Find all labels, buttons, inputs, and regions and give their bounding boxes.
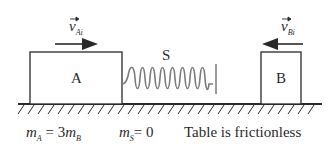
spring-mass-symbol: m bbox=[119, 124, 130, 140]
block-a-label: A bbox=[71, 70, 82, 87]
mass-relation-equals: = 3 bbox=[45, 124, 65, 140]
spring-mass-value: = 0 bbox=[134, 124, 154, 140]
velocity-b-arrow-icon bbox=[262, 38, 303, 50]
spring-label: S bbox=[162, 47, 170, 64]
velocity-a-label: vAi bbox=[69, 18, 83, 37]
mass-b-symbol: m bbox=[65, 124, 76, 140]
velocity-b-subscript: Bi bbox=[288, 28, 295, 37]
mass-a-subscript: A bbox=[37, 134, 42, 143]
block-b-label: B bbox=[276, 70, 286, 87]
spring-icon bbox=[122, 64, 216, 94]
table-hatching bbox=[18, 105, 314, 114]
spring-mass-caption: mS= 0 bbox=[119, 124, 154, 143]
velocity-b-symbol: v bbox=[281, 18, 288, 34]
mass-a-symbol: m bbox=[26, 124, 37, 140]
velocity-a-subscript: Ai bbox=[76, 28, 83, 37]
velocity-a-arrow-icon bbox=[55, 38, 98, 50]
mass-relation-caption: mA = 3mB bbox=[26, 124, 81, 143]
mass-b-subscript: B bbox=[76, 134, 81, 143]
velocity-b-label: vBi bbox=[281, 18, 295, 37]
velocity-a-symbol: v bbox=[69, 18, 76, 34]
table-note-caption: Table is frictionless bbox=[184, 124, 301, 141]
